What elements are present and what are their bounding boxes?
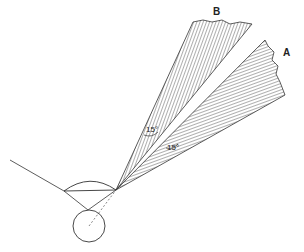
beam-label-a: A: [283, 47, 290, 58]
angle-label-b: 15°: [146, 125, 158, 134]
optical-axis-dashed: [89, 190, 116, 226]
incident-ray: [10, 160, 64, 191]
lens: [64, 181, 116, 191]
diagram-canvas: 15° 15° B A: [0, 0, 304, 252]
lens-to-eye-ray-left: [64, 191, 88, 210]
angle-label-a: 15°: [167, 143, 179, 152]
beam-label-b: B: [213, 6, 220, 17]
lens-to-eye-ray-right: [88, 190, 116, 210]
